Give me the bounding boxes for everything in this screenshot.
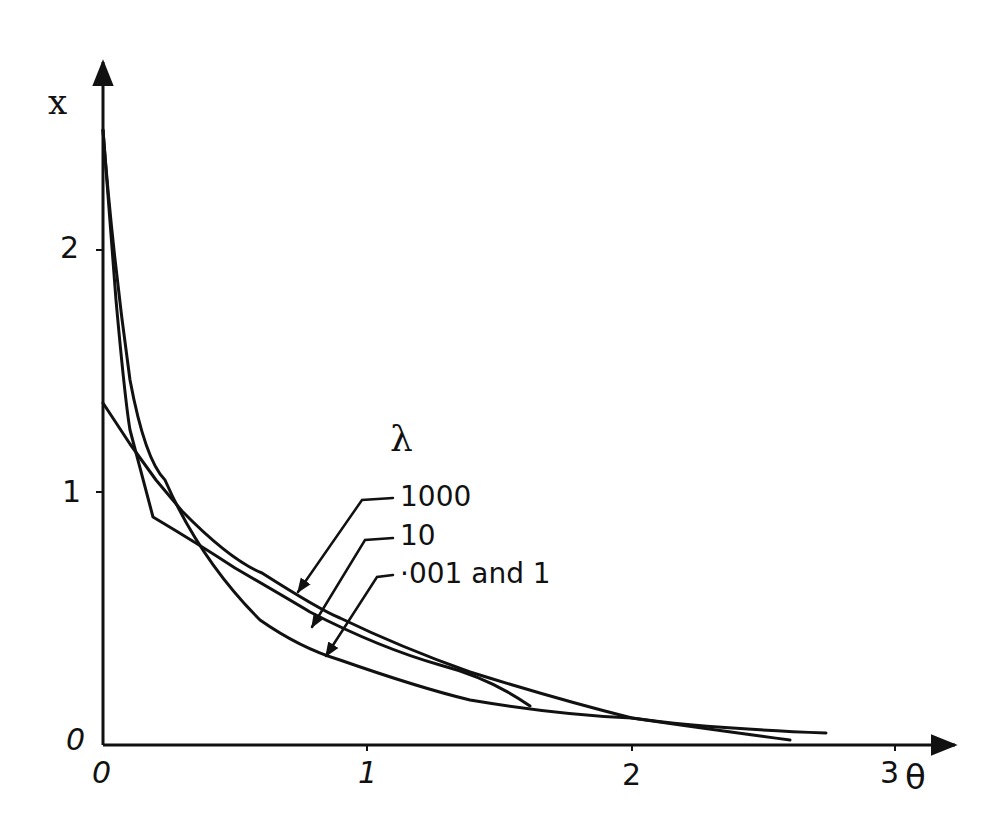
y-tick-label-0: 0 (66, 722, 85, 757)
legend-entry-001-and-1: ·001 and 1 (400, 557, 551, 590)
x-axis-label: θ (905, 757, 926, 797)
y-tick-label-1: 1 (62, 474, 81, 509)
legend-title: λ (390, 418, 413, 459)
x-tick-label-1: 1 (358, 755, 377, 790)
curve-lambda-001-and-1 (103, 130, 790, 740)
x-tick-label-3: 3 (880, 755, 899, 790)
y-tick-label-2: 2 (60, 230, 79, 265)
y-axis-label: x (48, 82, 67, 122)
chart-canvas (0, 0, 999, 832)
legend-entry-1000: 1000 (400, 480, 471, 513)
x-tick-label-2: 2 (622, 757, 641, 792)
legend-entry-10: 10 (400, 519, 436, 552)
x-tick-label-0: 0 (92, 755, 111, 790)
